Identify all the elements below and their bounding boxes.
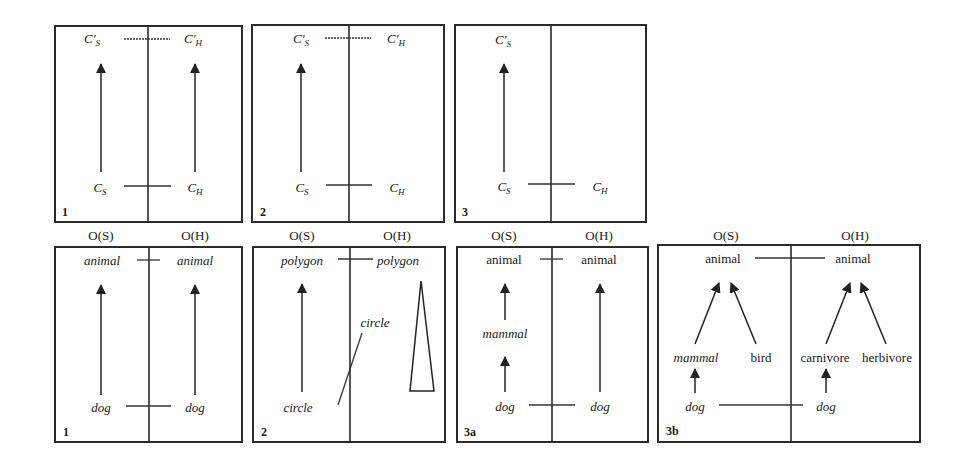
concept-animal-source: animal <box>84 253 121 268</box>
panel-number: 3a <box>464 425 476 439</box>
subsumption-arrow <box>731 283 756 344</box>
concept-dog-source: dog <box>91 400 111 415</box>
concept-circle-host: circle <box>360 315 389 330</box>
concept-animal-source: animal <box>705 251 741 266</box>
concept-dog-host: dog <box>185 400 205 415</box>
bottom-panel-3b: O(S) O(H) animal animal mammal bird carn… <box>658 228 920 442</box>
ontology-header-source: O(S) <box>491 228 516 243</box>
ontology-header-source: O(S) <box>289 228 314 243</box>
concept-cs-prime: C′S <box>84 31 101 48</box>
panel-number: 2 <box>260 205 266 219</box>
concept-dog-host: dog <box>816 399 836 414</box>
top-panel-3: C′S CS CH 3 <box>455 25 646 222</box>
ontology-header-source: O(S) <box>88 228 113 243</box>
concept-circle-source: circle <box>283 400 312 415</box>
bottom-panel-1: O(S) O(H) animal animal dog dog 1 <box>55 228 242 442</box>
concept-ch: CH <box>187 180 203 197</box>
ontology-header-host: O(H) <box>841 228 868 243</box>
concept-ch-prime: C′H <box>184 31 203 48</box>
bottom-panel-3a: O(S) O(H) animal animal mammal dog dog 3… <box>457 228 648 442</box>
panel-number: 2 <box>261 425 267 439</box>
bottom-panel-2: O(S) O(H) polygon polygon circle circle … <box>253 228 445 442</box>
concept-cs: CS <box>93 180 107 197</box>
panel-frame <box>252 25 444 222</box>
concept-mammal-source: mammal <box>674 350 719 365</box>
concept-mammal-source: mammal <box>483 326 528 341</box>
concept-bird-source: bird <box>751 350 772 365</box>
panel-number: 1 <box>63 425 69 439</box>
concept-polygon-source: polygon <box>280 253 323 268</box>
panel-number: 1 <box>62 205 68 219</box>
subsumption-arrow <box>695 283 719 344</box>
concept-ch: CH <box>592 179 608 196</box>
concept-carnivore-host: carnivore <box>800 350 849 365</box>
top-panel-2: C′S C′H CS CH 2 <box>252 25 444 222</box>
subsumption-arrow <box>826 283 850 344</box>
concept-dog-source: dog <box>495 399 515 414</box>
ontology-header-host: O(H) <box>585 228 612 243</box>
concept-dog-host: dog <box>590 399 610 414</box>
concept-animal-host: animal <box>581 252 617 267</box>
ontology-mapping-diagram: C′S C′H CS CH 1 C′S C′H CS CH 2 C′S CS C… <box>0 0 967 467</box>
concept-herbivore-host: herbivore <box>862 350 912 365</box>
top-panel-1: C′S C′H CS CH 1 <box>55 26 242 222</box>
concept-ch-prime: C′H <box>387 31 406 48</box>
concept-cs: CS <box>295 180 309 197</box>
panel-number: 3 <box>462 205 468 219</box>
ontology-header-host: O(H) <box>181 228 208 243</box>
concept-animal-host: animal <box>177 253 214 268</box>
concept-animal-source: animal <box>486 252 522 267</box>
concept-cs-prime: C′S <box>293 31 310 48</box>
concept-animal-host: animal <box>835 251 871 266</box>
ontology-header-source: O(S) <box>713 228 738 243</box>
concept-cs: CS <box>497 179 511 196</box>
concept-dog-source: dog <box>685 399 705 414</box>
concept-ch: CH <box>389 180 405 197</box>
panel-number: 3b <box>666 424 679 438</box>
subsumption-arrow <box>861 283 886 344</box>
concept-cs-prime: C′S <box>495 32 512 49</box>
ontology-header-host: O(H) <box>383 228 410 243</box>
panel-frame <box>253 247 445 442</box>
concept-polygon-host: polygon <box>376 253 419 268</box>
triangle-shape-icon <box>410 281 434 391</box>
